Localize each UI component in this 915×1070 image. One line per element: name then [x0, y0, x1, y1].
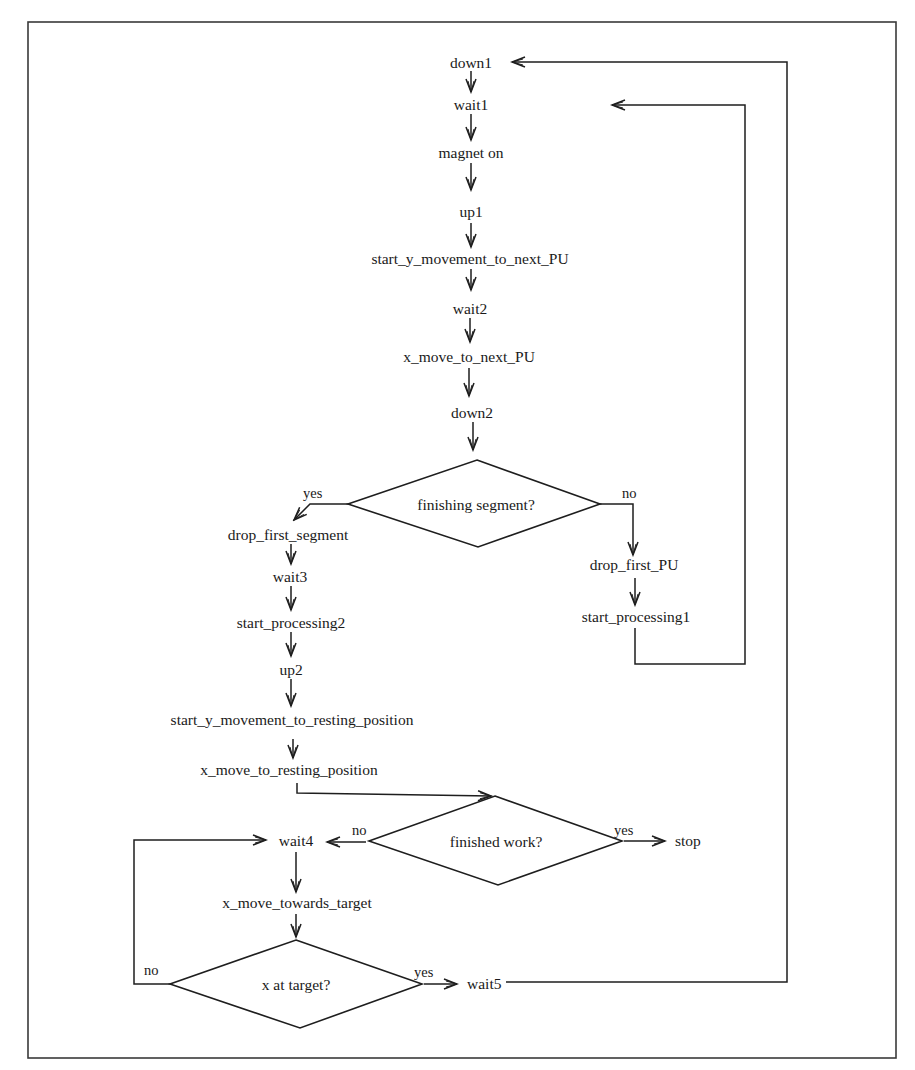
node-wait5: wait5 — [467, 975, 502, 992]
arrow-sp1-wait1-loop — [612, 105, 745, 664]
node-start-processing1: start_processing1 — [582, 608, 690, 625]
arrow-xmoverest-finished — [297, 783, 491, 796]
decision-finishing-segment-label: finishing segment? — [417, 496, 535, 513]
node-drop-first-segment: drop_first_segment — [228, 526, 349, 543]
edge-label-finishing-yes: yes — [303, 485, 323, 501]
edge-label-finishing-no: no — [622, 485, 637, 501]
node-x-move-to-resting-position: x_move_to_resting_position — [200, 761, 378, 778]
arrow-finishing-yes — [294, 504, 348, 520]
node-start-y-movement-to-next-pu: start_y_movement_to_next_PU — [371, 250, 568, 267]
flowchart-canvas: finishing segment? yes no finished work?… — [0, 0, 915, 1070]
node-wait3: wait3 — [273, 568, 308, 585]
node-wait4: wait4 — [279, 832, 314, 849]
arrow-finishing-no — [600, 504, 633, 555]
node-wait1: wait1 — [454, 96, 488, 113]
edge-label-target-yes: yes — [414, 964, 434, 980]
node-drop-first-pu: drop_first_PU — [590, 556, 679, 573]
node-magnet-on: magnet on — [439, 144, 504, 161]
decision-x-at-target-label: x at target? — [262, 976, 331, 993]
node-x-move-to-next-pu: x_move_to_next_PU — [403, 348, 535, 365]
node-up1: up1 — [459, 203, 482, 220]
edge-label-finished-no: no — [352, 822, 367, 838]
node-stop: stop — [675, 832, 701, 849]
node-up2: up2 — [279, 661, 302, 678]
node-x-move-towards-target: x_move_towards_target — [222, 894, 372, 911]
node-start-processing2: start_processing2 — [237, 614, 345, 631]
edge-label-target-no: no — [144, 962, 159, 978]
node-down2: down2 — [451, 404, 493, 421]
node-start-y-movement-to-resting-position: start_y_movement_to_resting_position — [171, 711, 414, 728]
node-wait2: wait2 — [453, 300, 487, 317]
edge-label-finished-yes: yes — [614, 822, 634, 838]
node-down1: down1 — [450, 54, 492, 71]
decision-finished-work-label: finished work? — [450, 833, 543, 850]
